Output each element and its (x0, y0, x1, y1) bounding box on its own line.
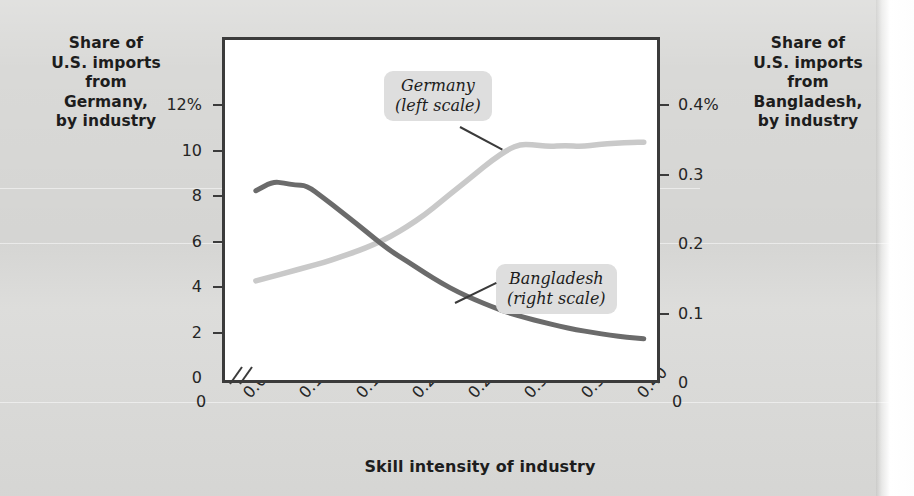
left-tick-mark (213, 286, 222, 288)
left-axis-title-line: U.S. imports (18, 54, 194, 74)
scan-artifact-line (0, 402, 914, 403)
left-tick-mark (213, 332, 222, 334)
right-axis-title-line: Bangladesh, (718, 93, 898, 113)
germany-callout-line2: (left scale) (395, 96, 481, 116)
axis-break-marks (226, 364, 260, 388)
left-tick-label: 6 (144, 232, 202, 251)
x-origin-label-left: 0 (196, 392, 206, 411)
bangladesh-series-line (256, 182, 644, 338)
right-tick-label: 0.1 (678, 304, 738, 323)
germany-series-line (256, 142, 644, 281)
left-tick-mark (213, 150, 222, 152)
bangladesh-callout-line2: (right scale) (507, 289, 606, 309)
bangladesh-series-callout: Bangladesh (right scale) (496, 264, 617, 314)
right-tick-label: 0.3 (678, 165, 738, 184)
left-tick-mark (213, 104, 222, 106)
left-tick-label: 0 (144, 368, 202, 387)
left-axis-title-line: by industry (18, 112, 194, 132)
germany-callout-line1: Germany (395, 76, 481, 96)
right-tick-label: 0.4% (678, 95, 738, 114)
bangladesh-callout-line1: Bangladesh (507, 269, 606, 289)
right-axis-title: Share ofU.S. importsfromBangladesh,by in… (718, 34, 898, 132)
left-tick-label: 2 (144, 323, 202, 342)
right-tick-label: 0.2 (678, 234, 738, 253)
right-axis-title-line: by industry (718, 112, 898, 132)
right-axis-title-line: U.S. imports (718, 54, 898, 74)
x-origin-label-right: 0 (672, 392, 682, 411)
left-tick-label: 12% (144, 95, 202, 114)
left-axis-title: Share ofU.S. importsfromGermany,by indus… (18, 34, 194, 132)
left-axis-title-line: from (18, 73, 194, 93)
right-axis-title-line: Share of (718, 34, 898, 54)
germany-series-callout: Germany (left scale) (384, 71, 492, 121)
right-tick-label: 0 (678, 373, 738, 392)
left-tick-label: 10 (144, 141, 202, 160)
left-tick-mark (213, 195, 222, 197)
right-axis-title-line: from (718, 73, 898, 93)
left-tick-label: 4 (144, 277, 202, 296)
x-axis-title: Skill intensity of industry (330, 457, 630, 477)
left-tick-mark (213, 241, 222, 243)
left-tick-label: 8 (144, 186, 202, 205)
left-axis-title-line: Share of (18, 34, 194, 54)
